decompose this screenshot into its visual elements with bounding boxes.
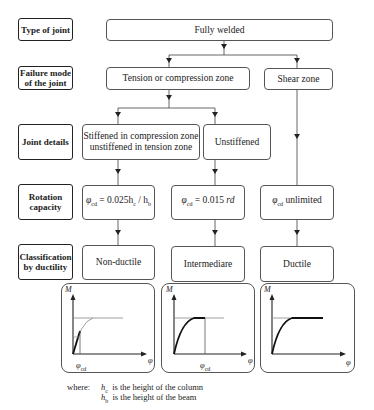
graph-1-y-label: M bbox=[65, 285, 72, 295]
legend-hb: hb is the height of the beam bbox=[101, 393, 196, 406]
legend-where: where: bbox=[67, 383, 90, 393]
graph-3-y-label: M bbox=[264, 285, 271, 295]
graph-2-phi-cd-label: φcd bbox=[200, 361, 210, 374]
graph-1-phi-cd-label: φcd bbox=[76, 361, 86, 374]
arrowheads bbox=[115, 44, 300, 235]
graph-1-curves bbox=[71, 294, 148, 357]
graph-3-curves bbox=[270, 294, 347, 357]
graph-2-curves bbox=[172, 294, 248, 357]
connectors-and-curves bbox=[0, 0, 374, 410]
graph-2-y-label: M bbox=[166, 285, 173, 295]
graph-1-x-label: φ bbox=[148, 356, 153, 366]
graph-2-x-label: φ bbox=[248, 356, 253, 366]
graph-3-x-label: φ bbox=[346, 358, 351, 368]
